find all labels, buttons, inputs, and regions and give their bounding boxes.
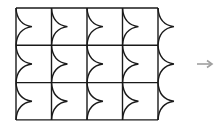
cusp-curve	[52, 45, 68, 82]
cusp-curve	[158, 83, 174, 120]
right-arrow-icon	[197, 61, 212, 68]
cusp-curve	[158, 45, 174, 82]
cusp-curve	[87, 83, 103, 120]
cusp-curve	[16, 8, 32, 45]
cusp-curve	[52, 83, 68, 120]
cusp-curve	[123, 83, 139, 120]
tessellation-diagram	[0, 0, 214, 130]
cusp-curve	[16, 83, 32, 120]
cusp-curve	[52, 8, 68, 45]
cusp-curve	[87, 8, 103, 45]
cusp-curve	[87, 45, 103, 82]
cusp-curve	[16, 45, 32, 82]
cusp-curve	[123, 8, 139, 45]
cusp-curve	[158, 8, 174, 45]
cusp-curve	[123, 45, 139, 82]
cusp-curves	[16, 8, 174, 120]
